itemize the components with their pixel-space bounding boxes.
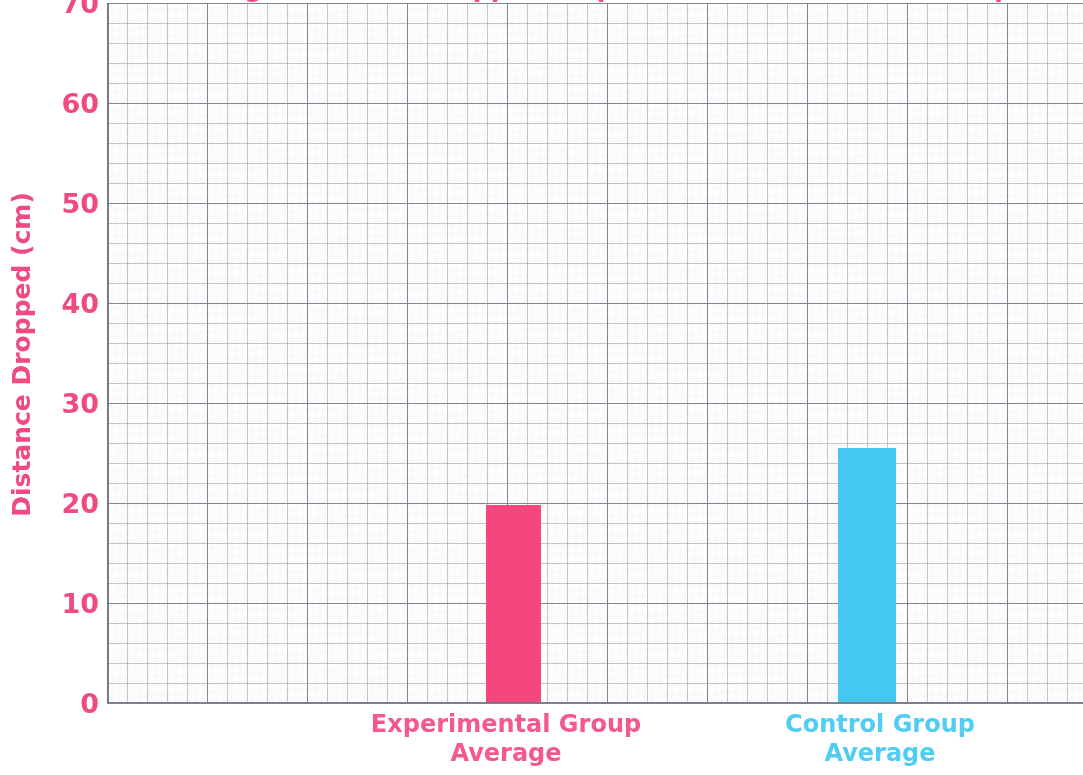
bar-chart-figure: Average Distance Dropped: Experimental v…	[0, 0, 1083, 775]
x-label-control-group: Control Group Average	[700, 710, 1060, 769]
bar-control-group	[838, 448, 896, 703]
x-axis-line	[107, 702, 1083, 704]
y-axis-title: Distance Dropped (cm)	[7, 120, 36, 590]
plot-area	[107, 3, 1083, 703]
x-label-experimental-line2: Average	[326, 739, 686, 768]
x-label-experimental-group: Experimental Group Average	[326, 710, 686, 769]
y-axis-line	[107, 3, 109, 703]
paper-texture-overlay	[107, 3, 1083, 703]
y-tick-0: 0	[7, 690, 99, 717]
x-label-control-line1: Control Group	[785, 710, 975, 738]
y-tick-10: 10	[7, 590, 99, 617]
bar-experimental-group	[486, 505, 541, 703]
y-tick-60: 60	[7, 90, 99, 117]
x-label-control-line2: Average	[700, 739, 1060, 768]
x-label-experimental-line1: Experimental Group	[371, 710, 641, 738]
y-tick-70: 70	[7, 0, 99, 17]
